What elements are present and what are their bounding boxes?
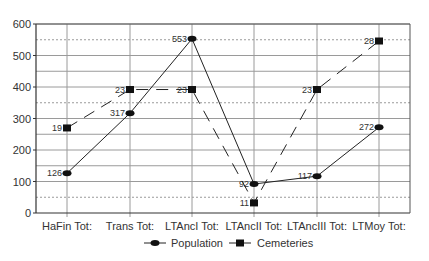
x-tick-label: LTAncII Tot: (226, 220, 283, 232)
y-tick-label: 500 (13, 50, 31, 62)
data-label: 126 (47, 168, 62, 178)
square-marker (250, 199, 258, 206)
data-label: 23 (177, 85, 187, 95)
x-tick-label: LTAncIII Tot: (287, 220, 347, 232)
circle-marker (126, 110, 135, 116)
y-tick-label: 300 (13, 113, 31, 125)
square-marker (236, 240, 244, 247)
legend-label: Cemeteries (257, 237, 314, 249)
square-marker (188, 86, 196, 93)
data-label: 272 (359, 122, 374, 132)
circle-marker (313, 173, 322, 179)
legend-label: Population (171, 237, 223, 249)
data-label: 553 (172, 34, 187, 44)
x-tick-label: HaFin Tot: (42, 220, 92, 232)
y-tick-label: 600 (13, 18, 31, 30)
data-label: 117 (298, 171, 312, 181)
data-label: 317 (110, 108, 125, 118)
circle-marker (250, 181, 259, 187)
square-marker (63, 124, 71, 131)
circle-marker (188, 36, 197, 42)
circle-marker (151, 240, 160, 246)
line-chart: 0100200300400500600HaFin Tot:Trans Tot:L… (0, 0, 429, 261)
circle-marker (63, 170, 72, 176)
square-marker (126, 86, 134, 93)
x-tick-label: Trans Tot: (106, 220, 154, 232)
x-tick-label: LTAncI Tot: (165, 220, 219, 232)
y-tick-label: 100 (13, 176, 31, 188)
circle-marker (375, 124, 384, 130)
square-marker (313, 86, 321, 93)
x-tick-label: LTMoy Tot: (352, 220, 405, 232)
y-tick-label: 400 (13, 81, 31, 93)
data-label: 11 (240, 198, 249, 208)
y-tick-label: 200 (13, 144, 31, 156)
legend: PopulationCemeteries (144, 237, 314, 249)
y-tick-label: 0 (25, 207, 31, 219)
cemeteries-line (67, 41, 379, 203)
data-label: 19 (52, 123, 62, 133)
data-label: 23 (302, 85, 312, 95)
data-label: 23 (115, 85, 125, 95)
square-marker (375, 38, 383, 45)
data-label: 28 (364, 36, 374, 46)
